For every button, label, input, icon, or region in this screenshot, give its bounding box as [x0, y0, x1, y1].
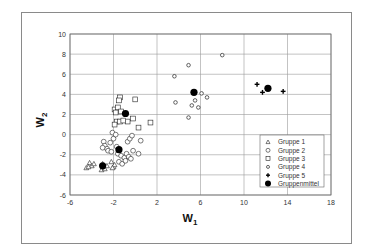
y-axis-label: W2	[34, 112, 49, 127]
y-tick-label: -6	[60, 192, 66, 199]
x-tick-label: -6	[67, 199, 73, 206]
y-tick-label: 0	[62, 131, 66, 138]
y-tick-label: 6	[62, 71, 66, 78]
square-marker	[131, 116, 136, 121]
legend-item-label: Gruppe 4	[278, 163, 305, 171]
diamond-marker	[193, 99, 197, 103]
circle-marker	[130, 133, 135, 138]
circle-marker	[100, 145, 105, 150]
square-marker	[117, 98, 122, 103]
diamond-marker	[173, 74, 177, 78]
y-tick-label: 10	[58, 31, 66, 38]
y-tick-label: 4	[62, 91, 66, 98]
diamond-marker	[267, 165, 270, 168]
y-tick-label: 8	[62, 51, 66, 58]
square-marker	[121, 118, 126, 123]
legend-item-label: Gruppe 5	[278, 172, 305, 180]
square-marker	[266, 157, 270, 161]
group-mean-marker	[265, 181, 271, 187]
legend-item-label: Gruppe 3	[278, 155, 305, 163]
y-tick-label: 2	[62, 111, 66, 118]
square-marker	[136, 125, 141, 130]
circle-marker	[266, 148, 270, 152]
group-mean-marker	[99, 162, 106, 169]
square-marker	[148, 120, 153, 125]
group-mean-marker	[122, 110, 129, 117]
legend-item-label: Gruppe 1	[278, 138, 305, 146]
diamond-marker	[220, 53, 224, 57]
scatter-chart: -6-226101418-6-4-20246810 W1 W2 Gruppe 1…	[0, 0, 367, 249]
square-marker	[112, 122, 117, 127]
circle-marker	[129, 156, 134, 161]
diamond-marker	[174, 101, 178, 105]
x-tick-label: -2	[110, 199, 116, 206]
group-mean-marker	[264, 85, 271, 92]
x-axis-label: W1	[183, 212, 198, 227]
diamond-marker	[187, 63, 191, 67]
circle-marker	[138, 138, 143, 143]
legend-item-label: Gruppe 2	[278, 147, 305, 155]
diamond-marker	[190, 104, 194, 108]
circle-marker	[136, 151, 141, 156]
y-tick-label: -2	[60, 151, 66, 158]
x-tick-label: 6	[199, 199, 203, 206]
circle-marker	[113, 132, 118, 137]
plus-marker	[260, 90, 265, 95]
x-tick-label: 2	[155, 199, 159, 206]
circle-marker	[123, 158, 128, 163]
triangle-marker	[109, 159, 114, 163]
data-points	[84, 53, 286, 171]
circle-marker	[109, 149, 114, 154]
triangle-marker	[92, 161, 97, 165]
legend-item-label: Gruppenmittel	[278, 180, 319, 188]
plus-marker	[281, 89, 286, 94]
group-mean-marker	[190, 89, 197, 96]
diamond-marker	[197, 106, 201, 110]
x-tick-label: 18	[327, 199, 335, 206]
square-marker	[113, 110, 118, 115]
diamond-marker	[200, 92, 204, 96]
circle-marker	[108, 140, 113, 145]
y-tick-label: -4	[60, 171, 66, 178]
diamond-marker	[187, 116, 191, 120]
plus-marker	[255, 82, 260, 87]
diamond-marker	[205, 96, 209, 100]
group-mean-marker	[115, 146, 122, 153]
legend: Gruppe 1Gruppe 2Gruppe 3Gruppe 4Gruppe 5…	[260, 135, 324, 188]
x-tick-label: 10	[240, 199, 248, 206]
circle-marker	[131, 148, 136, 153]
square-marker	[133, 97, 138, 102]
x-tick-label: 14	[284, 199, 292, 206]
